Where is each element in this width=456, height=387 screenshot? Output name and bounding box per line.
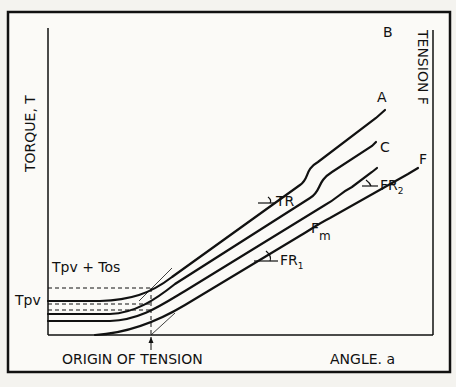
y-axis-label: TORQUE, T xyxy=(22,95,38,173)
curve-a-label: A xyxy=(377,89,387,105)
x-axis-angle-label: ANGLE. a xyxy=(330,351,395,367)
tpv-label: Tpv xyxy=(14,292,41,308)
right-axis-label: TENSION F xyxy=(415,29,431,105)
curve-c-label: C xyxy=(380,139,390,155)
tr-label: TR xyxy=(275,193,295,209)
x-axis-origin-label: ORIGIN OF TENSION xyxy=(62,351,203,367)
curve-f-label: F xyxy=(419,151,427,167)
tpv-tos-label: Tpv + Tos xyxy=(51,259,120,275)
torque-tension-diagram: TORQUE, T TENSION F ORIGIN OF TENSION AN… xyxy=(0,0,456,387)
curve-b-label: B xyxy=(383,24,393,40)
